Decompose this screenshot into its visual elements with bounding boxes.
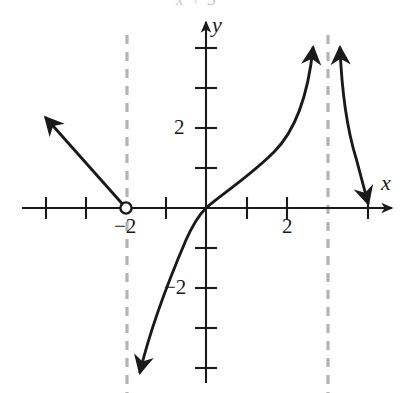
x-tick-label-negative-2: −2: [114, 216, 136, 237]
graph-figure: x + 3: [0, 0, 411, 393]
y-tick-label-negative-2: −2: [164, 277, 186, 298]
y-axis-label: y: [212, 14, 222, 36]
y-tick-label-positive-2: 2: [174, 117, 185, 138]
branch-right: [340, 48, 368, 203]
branch-left-ray: [46, 118, 126, 208]
x-tick-label-positive-2: 2: [282, 216, 293, 237]
open-point-marker: [120, 202, 131, 213]
asymptote-group: [127, 35, 328, 393]
x-axis-label: x: [381, 172, 391, 194]
coordinate-plane: [0, 0, 411, 393]
